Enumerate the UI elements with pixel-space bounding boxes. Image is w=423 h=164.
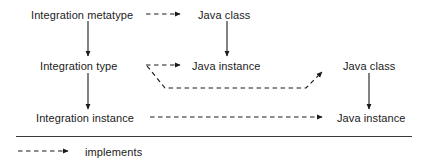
diagram-graphics <box>0 0 423 164</box>
node-integration-type: Integration type <box>40 61 117 72</box>
node-integration-instance: Integration instance <box>36 113 134 124</box>
node-java-instance-right: Java instance <box>337 113 406 124</box>
node-java-class-right: Java class <box>343 61 395 72</box>
diagram-canvas: Integration metatype Java class Integrat… <box>0 0 423 164</box>
node-java-instance-middle: Java instance <box>192 61 261 72</box>
node-integration-metatype: Integration metatype <box>31 10 133 21</box>
legend-item-implements-label: implements <box>85 147 142 158</box>
node-java-class-top: Java class <box>198 10 250 21</box>
